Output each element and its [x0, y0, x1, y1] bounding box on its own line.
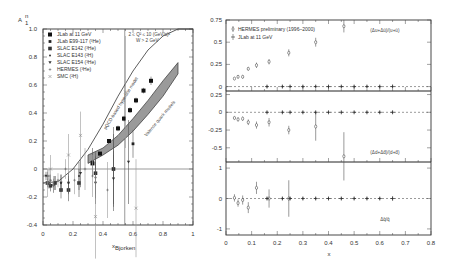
panel-label: (Δd+Δd̄)/(d+d̄): [370, 150, 400, 155]
figure: 00.20.40.60.81-0.4-0.200.20.40.60.81.0A1…: [0, 0, 457, 264]
y-tick-label: 0: [219, 109, 223, 115]
y-tick-label: 0: [34, 166, 38, 172]
legend-entry: HERMES (³He): [57, 66, 92, 72]
y-tick-label: 0: [219, 196, 223, 202]
series-4: [44, 120, 130, 207]
x-tick-label: 0.2: [273, 240, 282, 246]
x-tick-label: 0.3: [299, 240, 308, 246]
x-tick-label: 0.8: [427, 240, 436, 246]
y-tick-label: -0.4: [27, 222, 38, 228]
hermes-series: [233, 112, 345, 180]
y-tick-label: -0.2: [27, 194, 38, 200]
y-tick-label: 0: [219, 84, 223, 90]
legend-entry: JLab at 11 GeV: [57, 31, 92, 37]
x-tick-label: 0.4: [324, 240, 333, 246]
legend-entry: SLAC E143 (²H): [57, 52, 93, 58]
legend-entry: SLAC E154 (³He): [57, 59, 96, 65]
y-tick-label: 0.4: [29, 110, 38, 116]
y-tick-label: 1.0: [29, 26, 38, 32]
y-tick-label: 0.8: [29, 54, 38, 60]
x-tick-label: 0.2: [69, 231, 78, 237]
x-tick-label: 0.6: [129, 231, 138, 237]
x-tick-label: 0: [41, 231, 45, 237]
y-axis-label: A: [18, 17, 22, 23]
panel-1: -0.5-0.2500.25(Δd+Δd̄)/(d+d̄): [208, 92, 431, 181]
legend-hermes: HERMES preliminary (1996–2000): [238, 26, 315, 32]
x-tick-label: 0.8: [159, 231, 168, 237]
panel-label: (Δu+Δū)/(u+ū): [370, 28, 400, 33]
x-tick-label: 0.6: [376, 240, 385, 246]
y-tick-label: 0.25: [210, 92, 222, 98]
legend-entry: SLAC E142 (³He): [57, 45, 96, 51]
kinematics-q2: 2 ≤ Q² ≤ 10 (GeV/c)²: [129, 32, 171, 37]
x-tick-label: 0.4: [99, 231, 108, 237]
y-tick-label: 0.5: [214, 39, 223, 45]
legend-jlab: JLab at 11 GeV: [238, 34, 273, 40]
panel-2: -101Δq̄/q̄: [217, 165, 431, 232]
y-tick-label: 0.25: [210, 61, 222, 67]
y-tick-label: 1: [219, 165, 223, 171]
x-axis-label-sub: Bjorken: [115, 245, 135, 251]
x-tick-label: 0: [224, 240, 228, 246]
y-tick-label: -0.5: [212, 145, 223, 151]
y-tick-label: -1: [217, 226, 223, 232]
kinematics-w: W > 2 GeV: [136, 38, 160, 43]
x-tick-label: 0.7: [401, 240, 410, 246]
y-tick-label: 0.6: [29, 82, 38, 88]
y-tick-label: -0.25: [208, 127, 222, 133]
x-axis-label: x: [328, 251, 331, 257]
left-legend: JLab at 11 GeVJLab E99-117 (³He)SLAC E14…: [48, 31, 101, 79]
x-tick-label: 0.1: [247, 240, 256, 246]
legend-entry: JLab E99-117 (³He): [57, 38, 101, 44]
x-tick-label: 1: [191, 231, 195, 237]
right-plot: 00.10.20.30.40.50.60.70.8x00.250.50.75(Δ…: [208, 17, 436, 257]
y-axis-label-sup: n: [25, 13, 28, 19]
left-plot: 00.20.40.60.81-0.4-0.200.20.40.60.81.0A1…: [18, 13, 195, 259]
right-legend: HERMES preliminary (1996–2000)JLab at 11…: [231, 26, 315, 40]
y-tick-label: 0.2: [29, 138, 38, 144]
panel-label: Δq̄/q̄: [380, 217, 390, 222]
y-tick-label: 0.75: [210, 17, 222, 23]
x-tick-label: 0.5: [350, 240, 359, 246]
legend-entry: SMC (²H): [57, 73, 78, 79]
